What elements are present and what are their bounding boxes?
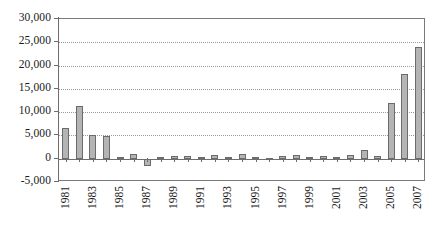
x-tick-mark (228, 158, 229, 162)
bar-chart: 30,00025,00020,00015,00010,0005,0000-5,0… (0, 0, 446, 251)
x-tick-mark (188, 158, 189, 162)
y-tick-mark (54, 65, 59, 66)
bar (89, 135, 96, 158)
bar (76, 106, 83, 159)
y-axis-tick-label: 30,000 (19, 12, 51, 24)
x-axis-tick-label: 1983 (87, 186, 99, 209)
x-tick-mark (242, 158, 243, 162)
bar (388, 103, 395, 159)
x-axis-tick-label: 1985 (114, 186, 126, 209)
x-tick-mark (106, 158, 107, 162)
y-axis-tick-label: -5,000 (21, 175, 51, 187)
y-tick-mark (54, 158, 59, 159)
y-tick-mark (54, 18, 59, 19)
x-tick-mark (418, 158, 419, 162)
x-axis-tick-label: 1993 (223, 186, 235, 209)
y-axis-tick-label: 10,000 (19, 105, 51, 117)
y-tick-mark (54, 111, 59, 112)
x-tick-mark (174, 158, 175, 162)
y-tick-mark (54, 88, 59, 89)
y-tick-mark (54, 134, 59, 135)
bars-layer (59, 19, 424, 180)
x-tick-mark (256, 158, 257, 162)
x-axis-tick-label: 2001 (331, 186, 343, 209)
y-axis-tick-label: 20,000 (19, 59, 51, 71)
x-tick-mark (161, 158, 162, 162)
x-axis-tick-label: 2003 (358, 186, 370, 209)
x-tick-mark (323, 158, 324, 162)
x-tick-mark (66, 158, 67, 162)
x-tick-mark (337, 158, 338, 162)
x-tick-mark (391, 158, 392, 162)
x-tick-mark (201, 158, 202, 162)
x-tick-mark (364, 158, 365, 162)
x-axis-tick-label: 1995 (250, 186, 262, 209)
x-axis-tick-label: 2007 (412, 186, 424, 209)
x-tick-mark (93, 158, 94, 162)
y-axis-tick-label: 0 (45, 152, 51, 164)
x-tick-mark (405, 158, 406, 162)
x-tick-mark (147, 158, 148, 162)
x-axis-tick-label: 1999 (304, 186, 316, 209)
x-axis-tick-label: 1981 (60, 186, 72, 209)
x-tick-mark (310, 158, 311, 162)
bar (103, 136, 110, 159)
x-tick-mark (350, 158, 351, 162)
y-tick-mark (54, 181, 59, 182)
x-axis-tick-label: 1987 (141, 186, 153, 209)
plot-area (59, 18, 425, 181)
x-tick-mark (134, 158, 135, 162)
bar (401, 74, 408, 159)
x-axis-tick-label: 2005 (385, 186, 397, 209)
x-axis-tick-label: 1989 (168, 186, 180, 209)
x-tick-mark (215, 158, 216, 162)
x-axis-tick-label: 1991 (196, 186, 208, 209)
y-axis-tick-label: 15,000 (19, 82, 51, 94)
bar (415, 47, 422, 159)
y-axis-tick-label: 25,000 (19, 36, 51, 48)
x-tick-mark (269, 158, 270, 162)
x-tick-mark (378, 158, 379, 162)
x-tick-mark (79, 158, 80, 162)
x-tick-mark (283, 158, 284, 162)
x-axis-tick-label: 1997 (277, 186, 289, 209)
x-tick-mark (296, 158, 297, 162)
x-tick-mark (120, 158, 121, 162)
bar (62, 128, 69, 158)
y-axis-tick-label: 5,000 (25, 129, 51, 141)
y-tick-mark (54, 41, 59, 42)
